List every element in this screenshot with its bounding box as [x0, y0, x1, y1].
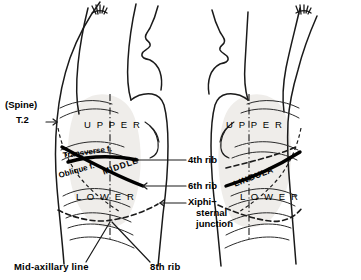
spine-label: (Spine)	[5, 100, 37, 110]
zone-label-upper-right: U P P E R	[84, 120, 141, 130]
zone-label-lower-left: L O W E R	[240, 192, 299, 202]
zone-label-upper-left: U P P E R	[226, 120, 283, 130]
label-8th-rib: 8th rib	[150, 262, 180, 272]
callout-6th-rib: 6th rib	[188, 181, 217, 191]
callout-xiphi-line1: Xiphi−	[188, 197, 217, 207]
lung-surface-markings-figure: .o{fill:none;stroke:#1a1a1a;stroke-width…	[0, 0, 361, 280]
spine-t2-label: T.2	[16, 115, 29, 125]
label-mid-axillary-line: Mid-axillary line	[14, 262, 89, 272]
callout-xiphi-line2: sternal	[196, 208, 227, 218]
callout-xiphi-line3: junction	[196, 219, 233, 229]
zone-label-lower-right: L O W E R	[76, 192, 135, 202]
callout-4th-rib: 4th rib	[188, 155, 217, 165]
